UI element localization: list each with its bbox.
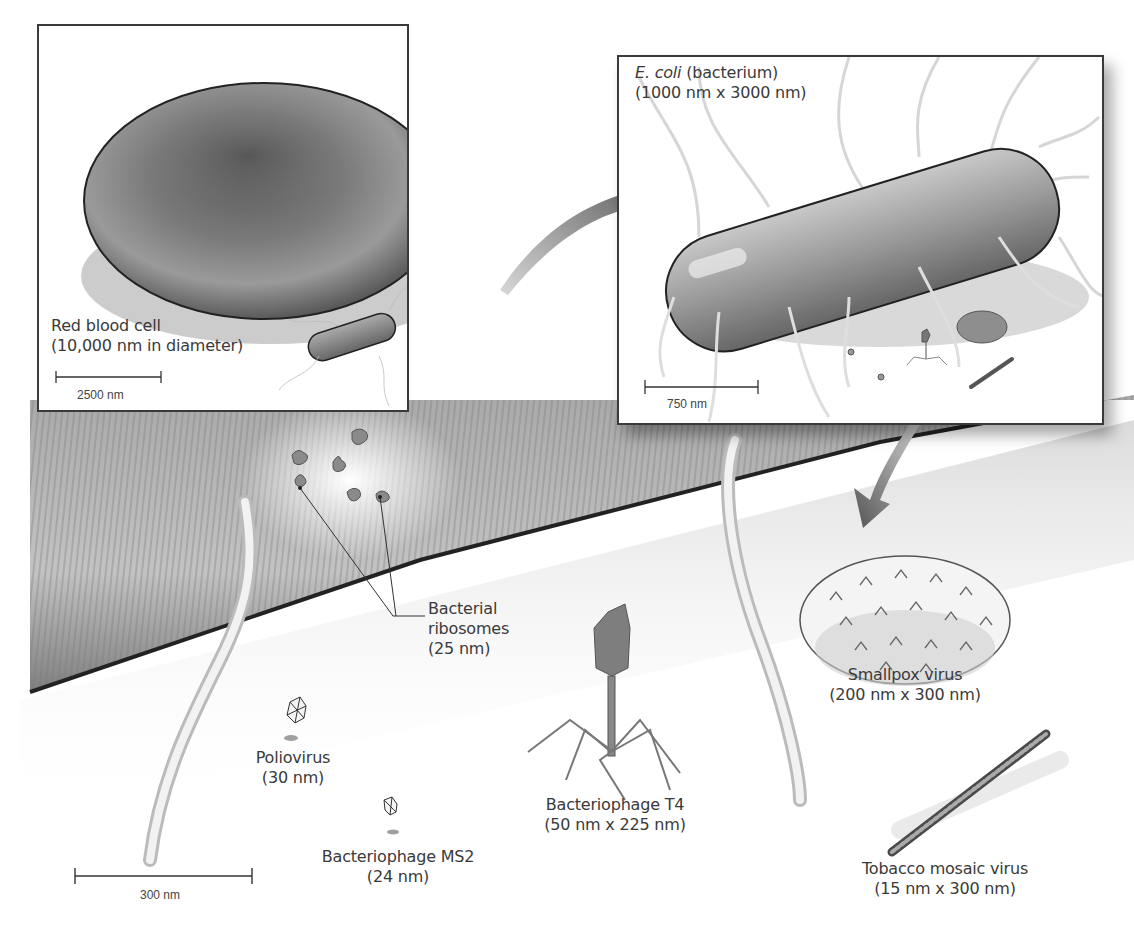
- main-scale-label: 300 nm: [140, 888, 180, 902]
- ribosomes-name-1: Bacterial: [428, 599, 509, 619]
- ribosomes-name-2: ribosomes: [428, 619, 509, 639]
- poliovirus-label: Poliovirus (30 nm): [243, 748, 343, 788]
- tmv-illustration: [892, 734, 1060, 852]
- ecoli-type: (bacterium): [681, 63, 778, 82]
- poliovirus-name: Poliovirus: [243, 748, 343, 768]
- rbc-size: (10,000 nm in diameter): [51, 336, 243, 356]
- t4-label: Bacteriophage T4 (50 nm x 225 nm): [540, 795, 690, 835]
- ms2-label: Bacteriophage MS2 (24 nm): [318, 847, 478, 887]
- ecoli-scale-bar: [645, 380, 758, 394]
- tmv-size: (15 nm x 300 nm): [850, 879, 1040, 899]
- rbc-name: Red blood cell: [51, 316, 243, 336]
- ecoli-label: E. coli (bacterium) (1000 nm x 3000 nm): [635, 63, 806, 103]
- ms2-size: (24 nm): [318, 867, 478, 887]
- ecoli-panel: E. coli (bacterium) (1000 nm x 3000 nm) …: [617, 55, 1104, 425]
- ecoli-name: E. coli (bacterium): [635, 63, 806, 83]
- main-scale-bar: [75, 868, 252, 884]
- ms2-illustration: [384, 797, 397, 815]
- ms2-name: Bacteriophage MS2: [318, 847, 478, 867]
- red-blood-cell-panel: Red blood cell (10,000 nm in diameter) 2…: [37, 24, 409, 412]
- t4-name: Bacteriophage T4: [540, 795, 690, 815]
- ecoli-scale-label: 750 nm: [667, 397, 707, 411]
- ribosomes-size: (25 nm): [428, 639, 509, 659]
- smallpox-label: Smallpox virus (200 nm x 300 nm): [815, 665, 995, 705]
- rbc-scale-label: 2500 nm: [77, 388, 124, 402]
- ecoli-species: E. coli: [635, 63, 681, 82]
- ecoli-illustration: [619, 57, 1104, 425]
- poliovirus-size: (30 nm): [243, 768, 343, 788]
- rbc-scale-bar: [56, 371, 161, 383]
- ribosomes-label: Bacterial ribosomes (25 nm): [428, 599, 509, 659]
- tmv-label: Tobacco mosaic virus (15 nm x 300 nm): [850, 859, 1040, 899]
- t4-size: (50 nm x 225 nm): [540, 815, 690, 835]
- rbc-label: Red blood cell (10,000 nm in diameter): [51, 316, 243, 356]
- smallpox-name: Smallpox virus: [815, 665, 995, 685]
- ecoli-size: (1000 nm x 3000 nm): [635, 83, 806, 103]
- tmv-name: Tobacco mosaic virus: [850, 859, 1040, 879]
- smallpox-size: (200 nm x 300 nm): [815, 685, 995, 705]
